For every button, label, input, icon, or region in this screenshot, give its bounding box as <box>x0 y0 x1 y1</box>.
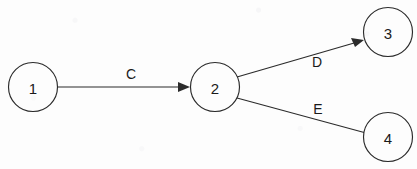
edge-c-label: C <box>126 66 136 82</box>
edge-d-line <box>237 41 361 77</box>
node-2-label: 2 <box>211 80 219 97</box>
edge-e-line <box>237 98 366 133</box>
edge-e[interactable]: E <box>237 98 366 133</box>
edge-c[interactable]: C <box>58 66 190 92</box>
edge-d[interactable]: D <box>237 38 364 77</box>
edge-e-label: E <box>313 101 322 117</box>
node-1-label: 1 <box>29 80 37 97</box>
node-3-label: 3 <box>384 25 392 42</box>
node-4[interactable]: 4 <box>364 113 413 162</box>
edge-d-arrowhead-icon <box>351 38 364 47</box>
graph-diagram: C D E 1 2 <box>0 0 417 169</box>
node-4-label: 4 <box>384 130 392 147</box>
diagram-canvas: C D E 1 2 <box>0 0 417 169</box>
node-3[interactable]: 3 <box>364 8 413 57</box>
edge-d-label: D <box>312 54 322 70</box>
edge-c-arrowhead-icon <box>178 82 190 92</box>
node-1[interactable]: 1 <box>9 63 58 112</box>
node-group: 1 2 3 4 <box>9 8 413 162</box>
node-2[interactable]: 2 <box>191 63 240 112</box>
